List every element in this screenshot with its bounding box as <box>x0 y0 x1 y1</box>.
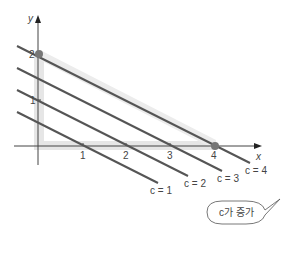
x-tick-3: 3 <box>167 150 173 161</box>
x-axis-label: x <box>255 151 262 162</box>
line-label-c2: c = 2 <box>184 178 206 189</box>
x-axis-arrow-icon <box>254 143 262 149</box>
level-curves-diagram: y x 1 2 3 4 1 2 c = 1 c = 2 c = 3 c = 4 … <box>0 0 291 255</box>
level-line-c3 <box>17 68 222 171</box>
y-axis-arrow-icon <box>35 15 41 23</box>
y-axis-label: y <box>27 13 34 24</box>
line-label-c1: c = 1 <box>150 185 172 196</box>
callout-text: c가 증가 <box>219 207 254 218</box>
point-y-intercept <box>35 50 43 58</box>
line-label-c4: c = 4 <box>245 165 267 176</box>
y-tick-2: 2 <box>29 49 35 60</box>
line-label-c3: c = 3 <box>217 173 239 184</box>
x-tick-1: 1 <box>80 150 86 161</box>
point-x-intercept <box>211 142 219 150</box>
x-tick-4: 4 <box>211 150 217 161</box>
y-tick-1: 1 <box>30 95 36 106</box>
x-tick-2: 2 <box>123 150 129 161</box>
shaded-band-top <box>40 50 216 150</box>
